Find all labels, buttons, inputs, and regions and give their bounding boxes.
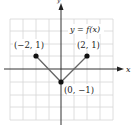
point-0-neg1 (58, 79, 63, 84)
point-neg2-1 (33, 53, 38, 58)
x-axis-arrow-icon (117, 67, 124, 72)
y-axis-arrow-icon (59, 3, 64, 10)
point-label-0-neg1: (0, −1) (64, 85, 94, 95)
function-graph: x y y = f(x) (−2, 1) (2, 1) (0, −1) (0, 0, 132, 127)
x-axis-label: x (126, 65, 131, 74)
y-axis-label: y (56, 0, 61, 4)
function-label: y = f(x) (69, 25, 100, 34)
point-label-neg2-1: (−2, 1) (14, 40, 44, 50)
point-label-2-1: (2, 1) (77, 40, 100, 50)
point-2-1 (84, 53, 89, 58)
